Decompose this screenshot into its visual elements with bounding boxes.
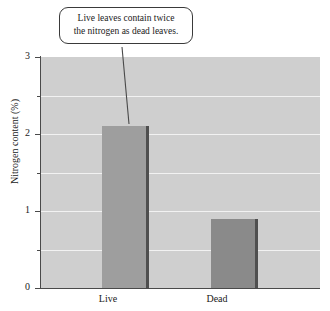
callout-annotation: Live leaves contain twice the nitrogen a… (59, 7, 193, 44)
callout-line-1: Live leaves contain twice (67, 12, 185, 25)
callout-leader-line (0, 0, 330, 311)
callout-line-2: the nitrogen as dead leaves. (67, 25, 185, 38)
chart-figure: 3 2 1 0 Nitrogen content (%) Live Dead L… (0, 0, 330, 311)
